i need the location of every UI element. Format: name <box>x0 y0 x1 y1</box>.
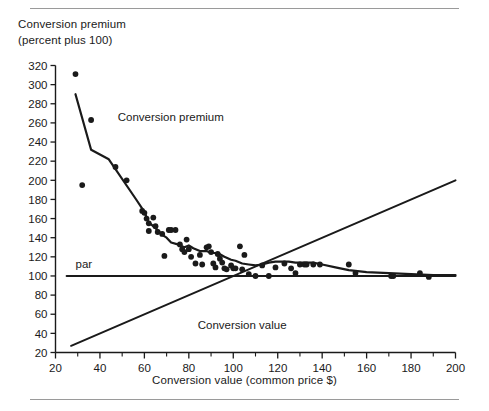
bottom-horizontal-rule <box>30 399 459 400</box>
data-point <box>273 265 279 271</box>
annotation-par: par <box>76 258 93 270</box>
y-tick-label: 240 <box>28 136 47 148</box>
annotation-conversion-value: Conversion value <box>198 319 287 331</box>
data-point <box>213 265 219 271</box>
data-point <box>193 261 199 267</box>
x-tick-label: 20 <box>49 362 62 374</box>
y-tick-label: 200 <box>28 175 47 187</box>
x-tick-label: 80 <box>182 362 195 374</box>
conversion-premium-chart: 2040608010012014016018020022024026028030… <box>0 0 489 411</box>
y-tick-label: 100 <box>28 270 47 282</box>
data-point <box>88 117 94 123</box>
y-tick-label: 220 <box>28 155 47 167</box>
x-tick-label: 100 <box>224 362 243 374</box>
data-point <box>146 228 152 234</box>
y-tick-label: 20 <box>35 347 48 359</box>
data-point <box>150 215 156 221</box>
x-tick-label: 180 <box>401 362 420 374</box>
data-point <box>173 227 179 233</box>
y-tick-label: 140 <box>28 232 47 244</box>
y-tick-label: 80 <box>35 289 48 301</box>
y-tick-label: 40 <box>35 328 48 340</box>
data-point <box>79 182 85 188</box>
x-tick-label: 40 <box>94 362 107 374</box>
y-tick-label: 320 <box>28 60 47 72</box>
y-tick-label: 260 <box>28 117 47 129</box>
x-tick-label: 160 <box>357 362 376 374</box>
data-point <box>233 265 239 271</box>
y-tick-label: 300 <box>28 79 47 91</box>
data-point <box>199 262 205 268</box>
y-tick-label: 180 <box>28 194 47 206</box>
data-point <box>219 260 225 266</box>
x-tick-label: 140 <box>313 362 332 374</box>
y-tick-label: 160 <box>28 213 47 225</box>
annotation-conversion-premium: Conversion premium <box>118 111 224 123</box>
x-tick-label: 200 <box>446 362 465 374</box>
data-point <box>73 71 79 77</box>
data-point <box>197 252 203 258</box>
y-tick-label: 60 <box>35 308 48 320</box>
data-point <box>346 262 352 268</box>
data-point <box>162 253 168 259</box>
x-tick-label: 120 <box>268 362 287 374</box>
data-point <box>237 243 243 249</box>
x-axis-title: Conversion value (common price $) <box>0 374 489 386</box>
data-point <box>188 254 194 260</box>
data-point <box>184 237 190 243</box>
y-tick-label: 120 <box>28 251 47 263</box>
y-tick-label: 280 <box>28 98 47 110</box>
data-point <box>206 243 212 249</box>
data-point <box>288 265 294 271</box>
data-point <box>224 266 230 272</box>
data-point <box>242 252 248 258</box>
x-tick-label: 60 <box>138 362 151 374</box>
